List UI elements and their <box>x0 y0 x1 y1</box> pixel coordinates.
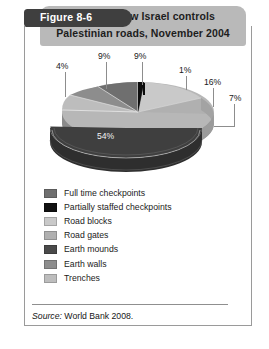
leader-line-full-time <box>142 62 143 85</box>
legend-label-road-gates: Road gates <box>64 231 108 240</box>
figure-number-label: Figure 8-6 <box>40 11 92 23</box>
source-prefix: Source: <box>32 311 62 321</box>
legend-item-road-blocks: Road blocks <box>44 214 244 228</box>
leader-line-trenches <box>65 72 66 97</box>
legend-label-earth-mounds: Earth mounds <box>64 245 118 254</box>
legend-item-trenches: Trenches <box>44 271 244 285</box>
legend-label-road-blocks: Road blocks <box>64 217 112 226</box>
source-note: Source: World Bank 2008. <box>32 311 133 321</box>
leader-line-earth-walls <box>106 62 107 89</box>
source-text: World Bank 2008. <box>62 311 133 321</box>
chart-legend: Full time checkpoints Partially staffed … <box>44 186 244 285</box>
slice-label-partially-staffed: 1% <box>179 65 191 75</box>
legend-swatch-earth-mounds <box>44 245 57 254</box>
slice-label-road-gates: 7% <box>229 93 241 103</box>
legend-item-earth-walls: Earth walls <box>44 257 244 271</box>
legend-item-road-gates: Road gates <box>44 229 244 243</box>
leader-line-road-blocks <box>213 88 214 107</box>
slice-label-trenches: 4% <box>56 61 68 71</box>
figure-number-tab: Figure 8-6 <box>24 9 132 27</box>
legend-item-partially-staffed-checkpoints: Partially staffed checkpoints <box>44 200 244 214</box>
legend-swatch-trenches <box>44 274 57 283</box>
slice-label-earth-walls: 9% <box>98 51 110 61</box>
slice-label-full-time: 9% <box>134 51 146 61</box>
figure-title-line-2: Palestinian roads, November 2004 <box>40 27 246 39</box>
source-divider <box>32 304 228 305</box>
legend-swatch-road-gates <box>44 231 57 240</box>
figure-8-6: How Israel controls Palestinian roads, N… <box>0 0 269 349</box>
legend-label-full-time-checkpoints: Full time checkpoints <box>64 189 145 198</box>
legend-item-earth-mounds: Earth mounds <box>44 243 244 257</box>
legend-swatch-road-blocks <box>44 217 57 226</box>
slice-label-road-blocks: 16% <box>204 77 221 87</box>
legend-label-partially-staffed-checkpoints: Partially staffed checkpoints <box>64 203 172 212</box>
leader-line-road-gates-v <box>234 104 235 127</box>
legend-label-trenches: Trenches <box>64 274 100 283</box>
legend-swatch-earth-walls <box>44 260 57 269</box>
legend-swatch-full-time-checkpoints <box>44 189 57 198</box>
legend-item-full-time-checkpoints: Full time checkpoints <box>44 186 244 200</box>
leader-line-road-gates-h <box>214 126 235 127</box>
pie-chart: 4% 9% 9% 1% 16% 7% 54% <box>26 48 250 183</box>
leader-line-partially-staffed <box>186 76 187 90</box>
legend-label-earth-walls: Earth walls <box>64 260 107 269</box>
slice-label-earth-mounds: 54% <box>97 131 114 141</box>
legend-swatch-partially-staffed-checkpoints <box>44 203 57 212</box>
